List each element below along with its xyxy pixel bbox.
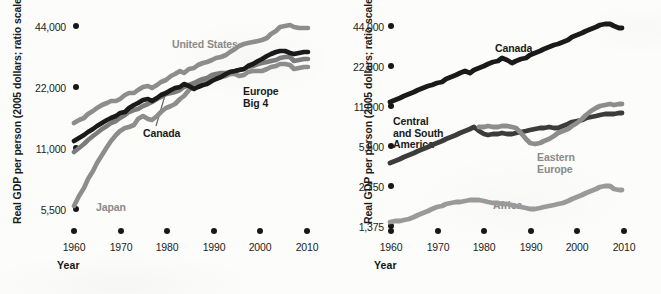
chart-panel-right: Real GDP per person (2005 dollars; ratio… [330, 0, 661, 294]
plot-lines-right [330, 0, 661, 294]
series-line-africa [390, 186, 622, 222]
series-line-central-south-america [390, 113, 622, 163]
series-line-eastern-europe [479, 104, 622, 144]
series-line-united-states [74, 25, 308, 123]
figure-page: Real GDP per person (2005 dollars; ratio… [0, 0, 661, 294]
series-line-canada-right [390, 24, 622, 102]
chart-panel-left: Real GDP per person (2005 dollars; ratio… [0, 0, 330, 294]
plot-lines-left [0, 0, 331, 294]
